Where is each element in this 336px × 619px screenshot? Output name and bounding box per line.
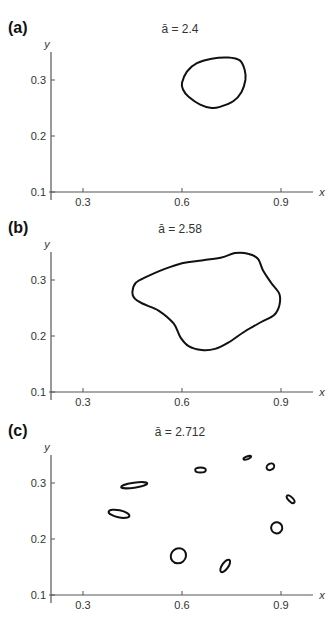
y-axis-label: y [43,238,51,250]
invariant-curve [182,58,246,109]
x-axis-label: x [318,589,325,601]
panel-c: (c) ā = 2.712 yx0.10.20.30.30.60.9 [8,422,325,611]
panel-b: (b) ā = 2.58 yx0.10.20.30.30.60.9 [8,219,325,408]
x-axis-label: x [318,386,325,398]
panel-title: ā = 2.712 [155,425,206,439]
y-axis-label: y [43,441,51,453]
panel-label: (b) [8,219,28,236]
y-tick-label: 0.1 [31,386,46,398]
y-tick-label: 0.1 [31,186,46,198]
y-tick-label: 0.3 [31,274,46,286]
y-tick-label: 0.2 [31,330,46,342]
island-curve [168,545,189,566]
x-tick-label: 0.9 [273,599,288,611]
x-tick-label: 0.9 [273,196,288,208]
panel-label: (a) [8,19,28,36]
island-curve [265,462,275,471]
island-curve [270,521,283,534]
x-tick-label: 0.6 [174,396,189,408]
y-tick-label: 0.3 [31,477,46,489]
island-curve [195,468,206,473]
x-axis-label: x [318,186,325,198]
x-tick-label: 0.9 [273,396,288,408]
island-curve [108,508,130,519]
island-curve [218,558,231,574]
x-tick-label: 0.6 [174,599,189,611]
y-tick-label: 0.1 [31,589,46,601]
x-tick-label: 0.6 [174,196,189,208]
island-curve [286,494,296,504]
y-axis-label: y [43,38,51,50]
x-tick-label: 0.3 [75,196,90,208]
x-tick-label: 0.3 [75,396,90,408]
panel-a: (a) ā = 2.4 yx0.10.20.30.30.60.9 [8,19,325,208]
y-tick-label: 0.2 [31,533,46,545]
figure: (a) ā = 2.4 yx0.10.20.30.30.60.9 (b) ā =… [0,0,336,619]
island-curve [121,481,148,490]
invariant-curve [132,253,280,350]
y-tick-label: 0.2 [31,130,46,142]
x-tick-label: 0.3 [75,599,90,611]
island-curve [243,455,251,460]
panel-label: (c) [8,422,28,439]
panel-title: ā = 2.58 [158,222,202,236]
y-tick-label: 0.3 [31,74,46,86]
panel-title: ā = 2.4 [161,22,198,36]
